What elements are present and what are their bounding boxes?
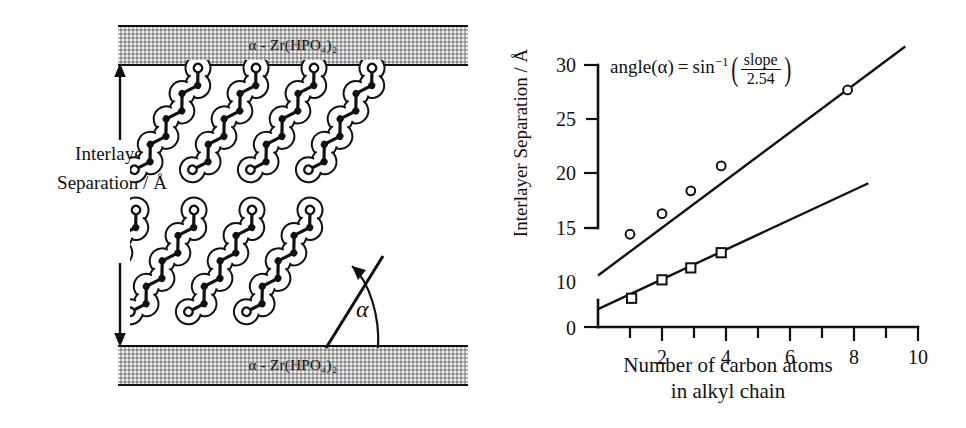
zirconium-phosphate-slab-bottom: α - Zr(HPO₄)₂ — [118, 345, 468, 386]
slab-bottom-label: α - Zr(HPO₄)₂ — [249, 357, 338, 374]
interlayer-separation-arrow — [112, 63, 128, 347]
y-tick-label-0: 0 — [566, 317, 576, 339]
data-point-square — [717, 248, 726, 257]
equation-open-paren: ( — [731, 50, 738, 88]
y-axis-title: Interlayer Separation / Å — [510, 18, 532, 268]
equation-denominator: 2.54 — [741, 70, 781, 87]
equation-exponent: −1 — [715, 54, 729, 69]
chain-row-lower — [130, 193, 335, 334]
angle-equation-annotation: angle(α)=sin−1(slope2.54) — [610, 50, 793, 88]
equation-numerator: slope — [741, 51, 781, 69]
y-tick-label-15: 15 — [556, 217, 576, 239]
y-axis — [584, 65, 598, 327]
x-ticks — [630, 327, 918, 341]
data-point-circle — [626, 230, 635, 239]
y-tick-label-20: 20 — [556, 162, 576, 184]
equation-lhs: angle(α) — [610, 56, 674, 77]
schematic-panel: α - Zr(HPO₄)₂ α - Zr(HPO₄)₂ Interlayer S… — [0, 0, 480, 428]
y-tick-label-10: 10 — [556, 271, 576, 293]
equation-function: sin — [692, 56, 714, 77]
equation-fraction: slope2.54 — [741, 51, 781, 87]
equation-close-paren: ) — [784, 50, 791, 88]
y-tick-label-25: 25 — [556, 108, 576, 130]
tilt-angle-alpha-label: α — [356, 296, 369, 323]
x-axis — [598, 327, 918, 341]
data-point-circle — [686, 186, 695, 195]
data-point-circle — [658, 209, 667, 218]
data-point-circle — [717, 162, 726, 171]
chain-row-upper — [130, 60, 397, 192]
x-axis-title-line2: in alkyl chain — [548, 378, 908, 404]
x-axis-title: Number of carbon atoms in alkyl chain — [548, 352, 908, 405]
data-point-square — [657, 275, 666, 284]
equation-equals: = — [678, 56, 689, 77]
alkyl-chain-bilayer — [130, 60, 470, 350]
x-axis-title-line1: Number of carbon atoms — [548, 352, 908, 378]
tilt-angle-indicator — [326, 256, 383, 348]
figure-root: α - Zr(HPO₄)₂ α - Zr(HPO₄)₂ Interlayer S… — [0, 0, 966, 428]
data-point-circle — [843, 86, 852, 95]
y-tick-label-30: 30 — [556, 54, 576, 76]
chart-panel: 30 25 20 15 10 0 2 4 6 8 10 Interlayer S… — [480, 0, 966, 428]
x-tick-label-10: 10 — [908, 346, 928, 368]
data-point-square — [686, 263, 695, 272]
slab-top-label: α - Zr(HPO₄)₂ — [249, 37, 338, 54]
data-point-square — [627, 294, 636, 303]
